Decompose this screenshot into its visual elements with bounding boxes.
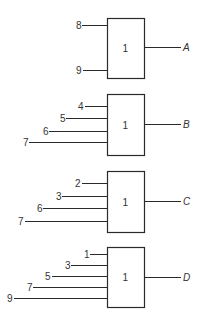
gate-B: 45671B [23, 95, 190, 156]
output-label: D [183, 272, 190, 283]
output-label: B [183, 119, 190, 130]
input-label: 3 [56, 191, 62, 202]
gate-symbol: 1 [123, 197, 129, 208]
input-wire: 5 [45, 271, 107, 282]
gate-C: 23671C [18, 172, 191, 233]
input-label: 7 [18, 216, 24, 227]
input-label: 9 [7, 293, 13, 304]
output-label: C [183, 196, 191, 207]
input-wire: 9 [76, 65, 107, 76]
gate-symbol: 1 [123, 272, 129, 283]
input-wire: 3 [65, 260, 107, 271]
input-wire: 2 [75, 178, 107, 189]
gate-symbol: 1 [123, 43, 129, 54]
input-wire: 5 [60, 113, 107, 124]
input-wire: 1 [84, 249, 107, 260]
input-label: 1 [84, 249, 90, 260]
input-label: 5 [60, 113, 66, 124]
input-label: 8 [76, 20, 82, 31]
input-wire: 3 [56, 191, 107, 202]
input-label: 2 [75, 178, 81, 189]
input-label: 7 [23, 137, 29, 148]
gate-symbol: 1 [123, 120, 129, 131]
input-label: 5 [45, 271, 51, 282]
input-wire: 6 [43, 126, 107, 137]
input-wire: 6 [37, 203, 107, 214]
input-label: 7 [27, 282, 33, 293]
input-wire: 4 [78, 101, 107, 112]
input-label: 6 [37, 203, 43, 214]
input-label: 6 [43, 126, 49, 137]
input-wire: 7 [23, 137, 107, 148]
input-label: 3 [65, 260, 71, 271]
input-wire: 9 [7, 293, 107, 304]
input-wire: 7 [27, 282, 107, 293]
output-label: A [182, 42, 190, 53]
logic-diagram: 891A45671B23671C135791D [0, 0, 201, 325]
input-label: 4 [78, 101, 84, 112]
gate-D: 135791D [7, 248, 190, 308]
input-wire: 8 [76, 20, 107, 31]
input-wire: 7 [18, 216, 107, 227]
gate-A: 891A [76, 19, 190, 79]
input-label: 9 [76, 65, 82, 76]
